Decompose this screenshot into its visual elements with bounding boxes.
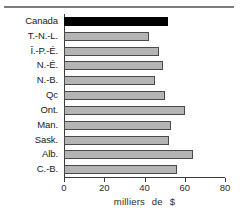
category-label: Ont.: [40, 103, 58, 118]
bar-row: [64, 14, 225, 29]
top-divider-rule: [4, 6, 234, 8]
bar-row: [64, 29, 225, 44]
bar: [64, 61, 163, 70]
bar-chart: Canada T.-N.-L. Î.-P.-É. N.-É. N.-B. Qc …: [0, 0, 240, 214]
x-axis-title-word: de: [152, 196, 163, 207]
x-axis-title: milliers de $: [64, 196, 225, 207]
bar: [64, 32, 149, 41]
bar: [64, 106, 185, 115]
category-label: N.-B.: [37, 73, 58, 88]
bar-row: [64, 44, 225, 59]
bar-row: [64, 118, 225, 133]
bar: [64, 91, 165, 100]
category-axis-labels: Canada T.-N.-L. Î.-P.-É. N.-É. N.-B. Qc …: [0, 14, 61, 177]
bar: [64, 150, 193, 159]
category-label: Sask.: [35, 133, 58, 148]
bar-row: [64, 147, 225, 162]
category-label: C.-B.: [37, 162, 58, 177]
bar: [64, 17, 168, 26]
bar: [64, 121, 171, 130]
bar-row: [64, 73, 225, 88]
bar: [64, 136, 169, 145]
x-tick-label: 0: [52, 182, 76, 193]
x-tick-label: 60: [173, 182, 197, 193]
bar: [64, 76, 155, 85]
x-tick-label: 80: [213, 182, 237, 193]
bar-series: [64, 14, 225, 177]
category-label: Canada: [25, 14, 58, 29]
x-axis-title-word: $: [170, 196, 175, 207]
x-axis-title-word: milliers: [114, 196, 145, 207]
bar-row: [64, 162, 225, 177]
category-label: Qc: [46, 88, 58, 103]
plot-area: [64, 14, 225, 178]
category-label: Î.-P.-É.: [30, 44, 58, 59]
bar-row: [64, 88, 225, 103]
x-tick-label: 20: [92, 182, 116, 193]
category-label: Alb.: [42, 147, 58, 162]
bar: [64, 47, 159, 56]
bar-row: [64, 58, 225, 73]
bar-row: [64, 103, 225, 118]
bar-row: [64, 133, 225, 148]
bar: [64, 165, 177, 174]
category-label: Man.: [37, 118, 58, 133]
category-label: N.-É.: [37, 58, 58, 73]
x-tick-label: 40: [133, 182, 157, 193]
category-label: T.-N.-L.: [28, 29, 58, 44]
